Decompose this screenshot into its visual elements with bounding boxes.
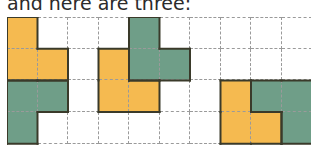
- empty-cell: [160, 112, 191, 144]
- empty-cell: [282, 17, 312, 49]
- empty-cell: [68, 80, 99, 112]
- empty-cell: [190, 80, 221, 112]
- green-cell: [160, 49, 191, 81]
- empty-cell: [38, 112, 69, 144]
- green-cell: [129, 49, 160, 81]
- empty-cell: [68, 112, 99, 144]
- empty-cell: [282, 49, 312, 81]
- green-cell: [282, 112, 312, 144]
- green-cell: [129, 17, 160, 49]
- orange-cell: [7, 17, 38, 49]
- orange-cell: [221, 80, 252, 112]
- orange-cell: [99, 49, 130, 81]
- empty-cell: [190, 112, 221, 144]
- orange-cell: [251, 112, 282, 144]
- empty-cell: [68, 49, 99, 81]
- empty-cell: [221, 49, 252, 81]
- orange-cell: [99, 80, 130, 112]
- orange-cell: [7, 49, 38, 81]
- green-cell: [7, 80, 38, 112]
- empty-cell: [221, 17, 252, 49]
- empty-cell: [160, 80, 191, 112]
- tile-grid: [7, 17, 311, 144]
- empty-cell: [251, 49, 282, 81]
- empty-cell: [38, 17, 69, 49]
- green-cell: [7, 112, 38, 144]
- empty-cell: [190, 17, 221, 49]
- empty-cell: [190, 49, 221, 81]
- empty-cell: [160, 17, 191, 49]
- empty-cell: [129, 112, 160, 144]
- empty-cell: [68, 17, 99, 49]
- green-cell: [251, 80, 282, 112]
- orange-cell: [221, 112, 252, 144]
- caption-text: and here are three:: [7, 0, 191, 14]
- green-cell: [38, 80, 69, 112]
- empty-cell: [251, 17, 282, 49]
- empty-cell: [99, 112, 130, 144]
- orange-cell: [38, 49, 69, 81]
- orange-cell: [129, 80, 160, 112]
- green-cell: [282, 80, 312, 112]
- empty-cell: [99, 17, 130, 49]
